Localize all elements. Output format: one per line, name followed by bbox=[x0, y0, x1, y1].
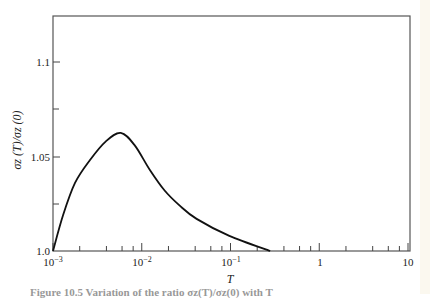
y-tick-label: 1.1 bbox=[36, 56, 50, 68]
figure-caption: Figure 10.5 Variation of the ratio σz(T)… bbox=[30, 286, 273, 298]
y-axis-ticks bbox=[53, 62, 60, 204]
data-line bbox=[53, 133, 270, 251]
x-tick-label: 10−2 bbox=[132, 255, 152, 268]
x-axis-ticks bbox=[53, 243, 408, 251]
x-axis-title: T bbox=[227, 272, 235, 286]
y-tick-label: 1.05 bbox=[31, 151, 51, 163]
x-tick-label: 10 bbox=[403, 256, 415, 268]
plot-frame bbox=[53, 16, 410, 251]
y-axis-title: σz (T)/σz (0) bbox=[10, 110, 24, 169]
x-tick-label: 1 bbox=[317, 256, 323, 268]
x-tick-labels: 10−3 10−2 10−1 1 10 bbox=[43, 255, 414, 268]
x-tick-label: 10−3 bbox=[43, 255, 63, 268]
x-tick-label: 10−1 bbox=[221, 255, 241, 268]
